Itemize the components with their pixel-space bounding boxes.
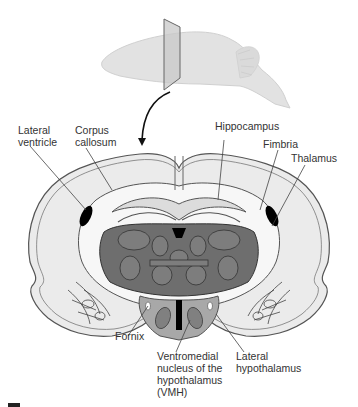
label-fimbria: Fimbria: [263, 138, 298, 150]
label-vmh: Ventromedial nucleus of the hypothalamus…: [157, 350, 222, 398]
label-fornix: Fornix: [115, 330, 144, 342]
scale-bar: [8, 403, 20, 407]
label-corpus-callosum: Corpus callosum: [75, 124, 116, 148]
brain-diagram: [0, 0, 358, 407]
label-hippocampus: Hippocampus: [215, 120, 279, 132]
label-lateral-hypothalamus: Lateral hypothalamus: [236, 350, 301, 374]
label-lateral-ventricle: Lateral ventricle: [18, 124, 57, 148]
label-thalamus: Thalamus: [291, 152, 337, 164]
brain-section-figure: Lateral ventricle Corpus callosum Hippoc…: [0, 0, 358, 407]
coronal-section: [29, 154, 330, 340]
